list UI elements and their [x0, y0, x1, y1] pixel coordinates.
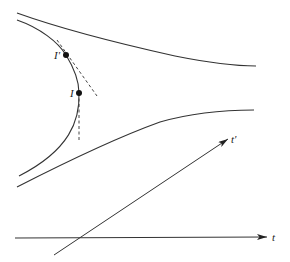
event-I-prime-point — [63, 52, 69, 58]
event-I-point — [76, 90, 82, 96]
event-I-prime-label: I' — [53, 49, 61, 61]
spacetime-diagram: I' I t' t — [0, 0, 290, 262]
lower-worldline — [17, 110, 254, 187]
event-I-label: I — [69, 87, 75, 99]
t-axis-label: t — [272, 231, 276, 243]
tangent-at-I-prime — [57, 40, 97, 96]
t-axis-arrow — [15, 237, 267, 238]
t-prime-axis-label: t' — [231, 133, 237, 145]
